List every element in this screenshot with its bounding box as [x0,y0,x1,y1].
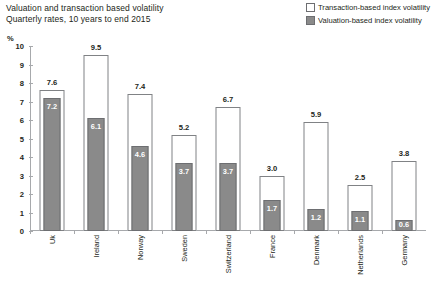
bar-group: 6.73.7 [206,46,250,231]
bar-group: 2.51.1 [338,46,382,231]
y-axis-tick-label: 5 [20,134,24,143]
bar-value-label-transaction: 3.8 [399,149,410,158]
y-axis-unit: % [7,34,14,43]
x-axis-tick [338,231,339,234]
x-axis-tick [250,231,251,234]
y-axis-tick-label: 6 [20,116,24,125]
x-axis-category: Denmark [294,234,338,284]
plot-area: 012345678910 7.67.29.56.17.44.65.23.76.7… [30,46,426,231]
y-axis-tick-label: 7 [20,97,24,106]
legend-swatch-icon-transaction [306,3,315,12]
x-axis-tick [162,231,163,234]
bar-group: 7.67.2 [30,46,74,231]
chart-subtitle: Quarterly rates, 10 years to end 2015 [6,14,164,25]
legend-item-valuation: Valuation-based index volatility [306,14,430,27]
bar-group: 7.44.6 [118,46,162,231]
bar-value-label-valuation: 3.7 [223,167,233,176]
bar-group: 9.56.1 [74,46,118,231]
bar-value-label-valuation: 4.6 [135,150,145,159]
bar-group: 3.01.7 [250,46,294,231]
bar-value-label-valuation: 0.6 [399,220,409,229]
bar-valuation[interactable] [44,98,61,231]
bar-valuation[interactable] [88,118,105,231]
x-axis-category-label: Switzerland [224,235,233,273]
x-axis-category-label: Ireland [92,235,101,258]
x-axis-category-label: Uk [48,235,57,244]
bar-series-group: 7.67.29.56.17.44.65.23.76.73.73.01.75.91… [30,46,426,231]
legend-swatch-icon-valuation [306,16,315,25]
bar-group: 3.80.6 [382,46,426,231]
bar-value-label-valuation: 1.7 [267,204,277,213]
legend-item-transaction: Transaction-based index volatility [306,1,430,14]
bar-value-label-valuation: 1.1 [355,215,365,224]
bar-value-label-transaction: 9.5 [91,43,102,52]
x-axis-tick [74,231,75,234]
x-axis-category: Switzerland [206,234,250,284]
bar-value-label-transaction: 7.6 [47,78,58,87]
bar-value-label-valuation: 7.2 [47,102,57,111]
x-axis-tick [294,231,295,234]
bar-group: 5.91.2 [294,46,338,231]
y-axis-tick-label: 9 [20,60,24,69]
x-axis-category: Netherlands [338,234,382,284]
page-title: Valuation and transaction based volatili… [6,3,164,14]
x-axis-category-label: Netherlands [356,235,365,275]
x-axis-category: Ireland [74,234,118,284]
bar-value-label-transaction: 5.9 [311,110,322,119]
bar-value-label-transaction: 3.0 [267,164,278,173]
bar-value-label-transaction: 7.4 [135,82,146,91]
bar-group: 5.23.7 [162,46,206,231]
x-axis-category-label: Sweden [180,235,189,262]
y-axis-tick-label: 8 [20,79,24,88]
bar-value-label-valuation: 1.2 [311,213,321,222]
y-axis-tick-label: 1 [20,208,24,217]
x-axis-tick [118,231,119,234]
x-axis-tick [206,231,207,234]
y-axis-tick-label: 4 [20,153,24,162]
x-axis-category-label: Germany [400,235,409,265]
y-axis-tick-label: 10 [16,42,24,51]
bar-value-label-transaction: 5.2 [179,123,190,132]
chart-title-block: Valuation and transaction based volatili… [6,3,164,25]
y-axis-tick-label: 2 [20,190,24,199]
x-axis-category: Norway [118,234,162,284]
x-axis-category: Uk [30,234,74,284]
legend-label-valuation: Valuation-based index volatility [318,16,422,25]
bar-value-label-valuation: 3.7 [179,167,189,176]
y-axis-tick-label: 0 [20,227,24,236]
x-axis-tick [382,231,383,234]
y-axis-tick-label: 3 [20,171,24,180]
x-axis-category: Sweden [162,234,206,284]
bar-value-label-transaction: 2.5 [355,173,366,182]
x-axis-category-label: France [268,235,277,258]
x-axis-category-labels: UkIrelandNorwaySwedenSwitzerlandFranceDe… [30,234,426,284]
x-axis-category-label: Norway [136,235,145,260]
chart-legend: Transaction-based index volatility Valua… [306,1,430,27]
bar-value-label-transaction: 6.7 [223,95,234,104]
x-axis-category-label: Denmark [312,235,321,265]
legend-label-transaction: Transaction-based index volatility [318,3,430,12]
x-axis-category: France [250,234,294,284]
x-axis-tick [30,231,31,234]
x-axis-category: Germany [382,234,426,284]
bar-value-label-valuation: 6.1 [91,122,101,131]
